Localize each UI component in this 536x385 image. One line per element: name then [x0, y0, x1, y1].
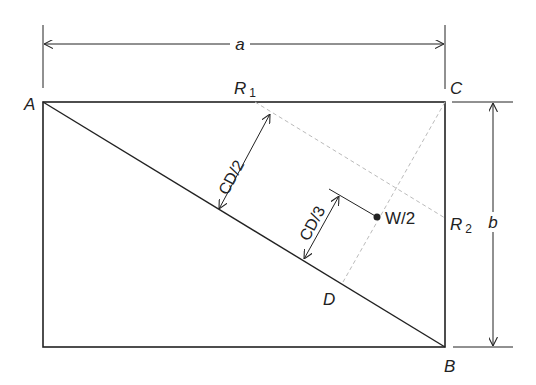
point-label-r2: R2	[450, 215, 472, 236]
point-label-c: C	[450, 79, 463, 98]
subscript-r1: 1	[249, 86, 256, 100]
dashed-line-c-d	[343, 102, 445, 282]
load-label: W/2	[385, 209, 415, 228]
dimension-label-b: b	[488, 213, 497, 232]
point-label-r1: R1	[234, 79, 256, 100]
subscript-r2: 2	[465, 222, 472, 236]
dimension-label-cd-half: CD/2	[215, 157, 247, 197]
dimension-label-a: a	[235, 35, 244, 54]
point-label-b: B	[444, 357, 455, 376]
load-point-dot	[374, 214, 381, 221]
dashed-line-r1-r2	[255, 102, 445, 218]
point-label-d: D	[323, 290, 335, 309]
load-leader-line	[329, 189, 377, 217]
rectangle-diagonal-diagram: a b CD/2 CD/3 W/2 A C B D R1 R2	[0, 0, 536, 385]
point-label-a: A	[23, 95, 35, 114]
